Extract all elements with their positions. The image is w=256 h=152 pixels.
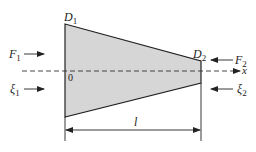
label-xi1: ξ1 (10, 82, 20, 98)
label-origin: 0 (68, 72, 73, 83)
tapered-bar (65, 24, 201, 117)
label-f1: F1 (8, 47, 21, 63)
label-xi2: ξ2 (237, 82, 247, 98)
label-d2: D2 (192, 47, 206, 63)
tapered-bar-diagram: D1 D2 F1 ξ1 F2 ξ2 0 x l (0, 0, 256, 152)
label-d1: D1 (63, 10, 77, 26)
label-length: l (134, 115, 138, 129)
label-axis-x: x (241, 64, 247, 76)
